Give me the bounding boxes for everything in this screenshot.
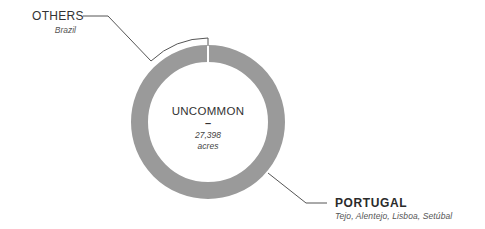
- portugal-label: PORTUGAL: [335, 196, 407, 210]
- center-unit: acres: [158, 141, 258, 151]
- others-detail: Brazil: [32, 25, 76, 35]
- portugal-detail: Tejo, Alentejo, Lisboa, Setúbal: [335, 211, 452, 221]
- center-value: 27,398: [158, 130, 258, 140]
- center-separator: –: [158, 117, 258, 129]
- center-title: UNCOMMON: [158, 105, 258, 117]
- others-label: OTHERS: [32, 9, 84, 23]
- others-leader-line: [83, 16, 151, 61]
- portugal-leader-line: [268, 173, 327, 203]
